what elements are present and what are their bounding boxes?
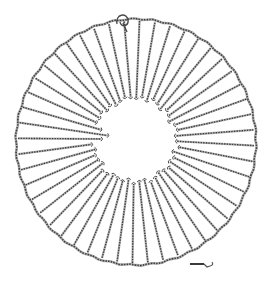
clasp-icon: [117, 15, 128, 32]
outer-chain-ring: [15, 19, 256, 266]
radial-chain-spokes: [18, 21, 254, 263]
chain-ornament-drawing: [0, 0, 270, 283]
scale-bar: [190, 262, 213, 267]
